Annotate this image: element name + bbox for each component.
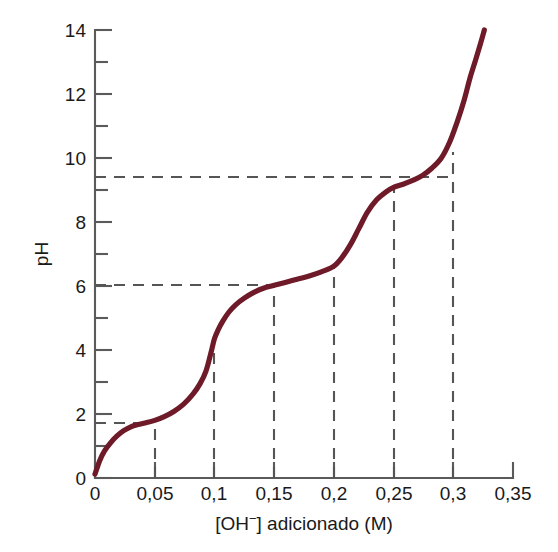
x-tick-label-0.35: 0,35 [495,483,532,504]
y-axis-title: pH [31,242,52,266]
x-tick-label-0.05: 0,05 [137,483,174,504]
x-axis-title-superscript-minus: − [249,511,257,526]
y-tick-label-0: 0 [75,468,86,489]
x-tick-label-0.1: 0,1 [201,483,227,504]
x-tick-label-0.25: 0,25 [376,483,413,504]
y-tick-label-12: 12 [65,84,86,105]
x-axis-title-bracket-close: ] adicionado (M) [257,513,393,534]
x-tick-label-0.2: 0,2 [321,483,347,504]
y-tick-label-6: 6 [75,276,86,297]
titration-curve-figure: 0 2 4 6 8 10 12 14 0 0,05 0,1 0,15 0,2 0… [0,0,558,552]
y-tick-label-10: 10 [65,148,86,169]
y-tick-label-14: 14 [65,20,87,41]
chart-svg: 0 2 4 6 8 10 12 14 0 0,05 0,1 0,15 0,2 0… [0,0,558,552]
x-tick-label-0.3: 0,3 [440,483,466,504]
y-tick-label-4: 4 [75,340,86,361]
y-tick-label-2: 2 [75,404,86,425]
y-tick-label-8: 8 [75,212,86,233]
x-axis-title-bracket-open: [OH [215,513,249,534]
x-tick-label-0: 0 [90,483,101,504]
x-axis-title: [OH−] adicionado (M) [215,511,393,534]
x-tick-label-0.15: 0,15 [256,483,293,504]
